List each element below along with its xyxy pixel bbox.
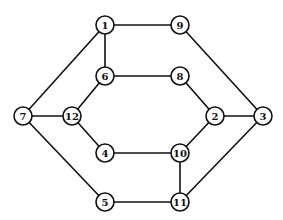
- node-label: 10: [173, 148, 187, 159]
- node-label: 8: [177, 71, 184, 82]
- node-8: 8: [171, 67, 189, 85]
- node-1: 1: [96, 16, 114, 34]
- node-label: 4: [102, 148, 109, 159]
- node-label: 9: [177, 20, 184, 31]
- node-7: 7: [14, 107, 32, 125]
- node-label: 7: [20, 111, 27, 122]
- node-3: 3: [254, 107, 272, 125]
- node-9: 9: [171, 16, 189, 34]
- node-5: 5: [96, 193, 114, 211]
- node-label: 12: [65, 111, 79, 122]
- node-12: 12: [63, 107, 81, 125]
- node-label: 3: [260, 111, 267, 122]
- edges-layer: [23, 25, 263, 202]
- nodes-layer: 196871223410511: [14, 16, 272, 211]
- graph-diagram: 196871223410511: [0, 0, 283, 220]
- node-label: 6: [102, 71, 109, 82]
- node-10: 10: [171, 144, 189, 162]
- edge-7-5: [23, 116, 105, 202]
- node-label: 11: [173, 197, 187, 208]
- node-label: 1: [102, 20, 109, 31]
- node-4: 4: [96, 144, 114, 162]
- edge-9-3: [180, 25, 263, 116]
- node-label: 5: [102, 197, 109, 208]
- edge-3-11: [180, 116, 263, 202]
- node-11: 11: [171, 193, 189, 211]
- node-2: 2: [206, 107, 224, 125]
- edge-1-7: [23, 25, 105, 116]
- node-6: 6: [96, 67, 114, 85]
- node-label: 2: [212, 111, 219, 122]
